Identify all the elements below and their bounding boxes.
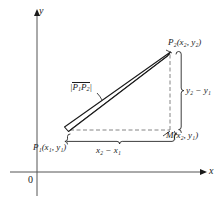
figure-canvas [0, 0, 220, 211]
horizontal-leg-label: x₂ − x₁ [96, 146, 121, 155]
origin-label: 0 [28, 175, 33, 185]
horizontal-leg-brace [65, 131, 177, 144]
vertical-leg-label: y₂ − y₁ [186, 86, 211, 95]
hypotenuse-label: |P1P2| [70, 82, 92, 93]
vertical-leg-brace [176, 52, 184, 133]
x-axis-label: x [209, 166, 213, 176]
hypotenuse-label-leader [97, 93, 102, 100]
point-m-label: M(x₂, y₁) [166, 131, 198, 140]
y-axis-label: y [39, 6, 43, 16]
x-axis-arrowhead [200, 169, 207, 175]
hypotenuse-overline: P1P2 [72, 82, 89, 93]
hypotenuse-label-text: |P1P2| [70, 82, 92, 92]
point-p2-label: P₂(x₂, y₂) [168, 38, 201, 47]
point-p1-label: P₁(x₁, y₁) [33, 143, 66, 152]
